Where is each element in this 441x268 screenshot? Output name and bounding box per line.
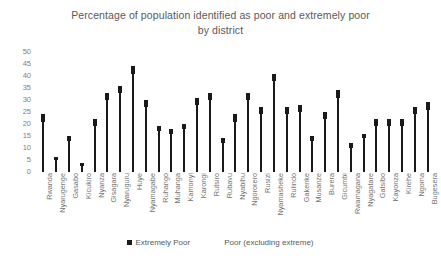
bar-column: [203, 52, 216, 172]
bar-column: [370, 52, 383, 172]
legend-label: Extremely Poor: [135, 238, 190, 247]
x-axis-label: Ruhango: [162, 173, 170, 203]
bar-extremely-poor: [324, 119, 326, 172]
bar-column: [127, 52, 140, 172]
y-axis: 50454035302520151050: [0, 46, 34, 178]
y-axis-tick: 15: [23, 132, 31, 140]
bar-poor-excluding-extreme: [362, 134, 366, 139]
bar-column: [319, 52, 332, 172]
bar-extremely-poor: [145, 107, 147, 172]
bar-poor-excluding-extreme: [221, 138, 225, 143]
bar-poor-excluding-extreme: [272, 74, 276, 81]
bar-poor-excluding-extreme: [118, 86, 122, 93]
bar-poor-excluding-extreme: [413, 107, 417, 114]
bar-column: [242, 52, 255, 172]
bar-column: [165, 52, 178, 172]
y-axis-tick: 30: [23, 96, 31, 104]
bar-extremely-poor: [68, 141, 70, 172]
bar-column: [114, 52, 127, 172]
bar-column: [306, 52, 319, 172]
x-axis-label: Rusizi: [264, 173, 272, 193]
x-axis-label: Bugesera: [431, 173, 439, 204]
x-axis-label: Nyaruguru: [123, 173, 131, 207]
x-axis-label: Kicukiro: [85, 173, 93, 199]
x-axis-label: Rwamagana: [354, 173, 362, 214]
x-axis-label: Gasabo: [72, 173, 80, 199]
chart-title-line-1: Percentage of population identified as p…: [71, 9, 370, 21]
legend-item[interactable]: Extremely Poor: [127, 238, 190, 247]
bar-extremely-poor: [401, 126, 403, 172]
bar-column: [178, 52, 191, 172]
bar-column: [37, 52, 50, 172]
bars-layer: [37, 52, 434, 172]
chart-legend: Extremely PoorPoor (excluding extreme): [0, 238, 441, 247]
bar-column: [50, 52, 63, 172]
bar-poor-excluding-extreme: [93, 119, 97, 126]
x-axis-label: Nyabihu: [239, 173, 247, 200]
bar-extremely-poor: [183, 129, 185, 172]
bar-column: [229, 52, 242, 172]
legend-item[interactable]: Poor (excluding extreme): [216, 238, 313, 247]
bar-extremely-poor: [234, 122, 236, 172]
bar-poor-excluding-extreme: [426, 102, 430, 109]
bar-poor-excluding-extreme: [105, 93, 109, 100]
x-axis-label: Karongi: [200, 173, 208, 198]
bar-poor-excluding-extreme: [259, 107, 263, 114]
y-axis-tick: 0: [27, 168, 31, 176]
bar-extremely-poor: [337, 98, 339, 172]
bar-poor-excluding-extreme: [298, 105, 302, 112]
bar-extremely-poor: [170, 134, 172, 172]
bar-poor-excluding-extreme: [54, 157, 58, 160]
bar-column: [357, 52, 370, 172]
y-axis-tick: 35: [23, 84, 31, 92]
bar-poor-excluding-extreme: [285, 107, 289, 114]
x-axis-label: Gisagara: [110, 173, 118, 203]
bar-column: [293, 52, 306, 172]
bar-extremely-poor: [42, 122, 44, 172]
bar-extremely-poor: [286, 114, 288, 172]
bar-extremely-poor: [427, 110, 429, 172]
bar-extremely-poor: [260, 114, 262, 172]
y-axis-tick: 20: [23, 120, 31, 128]
bar-poor-excluding-extreme: [400, 119, 404, 126]
bar-extremely-poor: [350, 148, 352, 172]
bar-extremely-poor: [414, 114, 416, 172]
x-axis-label: Ngororero: [251, 173, 259, 206]
bar-column: [280, 52, 293, 172]
x-axis-label: Gakenke: [303, 173, 311, 202]
x-axis-label: Nyagatare: [367, 173, 375, 207]
bar-extremely-poor: [299, 112, 301, 172]
chart-title: Percentage of population identified as p…: [30, 8, 411, 38]
x-axis-label: Gicumbi: [341, 173, 349, 200]
y-axis-tick: 40: [23, 72, 31, 80]
bar-extremely-poor: [94, 126, 96, 172]
bar-extremely-poor: [311, 141, 313, 172]
bar-extremely-poor: [388, 126, 390, 172]
x-axis-label: Nyarugenge: [59, 173, 67, 213]
y-axis-tick: 50: [23, 48, 31, 56]
bar-column: [101, 52, 114, 172]
bar-poor-excluding-extreme: [336, 90, 340, 97]
x-axis-label: Rutsiro: [213, 173, 221, 196]
x-axis-label: Nyamagabe: [149, 173, 157, 212]
bar-column: [139, 52, 152, 172]
bar-extremely-poor: [209, 100, 211, 172]
x-axis-label: Huye: [136, 173, 144, 190]
bar-poor-excluding-extreme: [131, 66, 135, 73]
bar-extremely-poor: [158, 131, 160, 172]
bar-column: [332, 52, 345, 172]
bar-extremely-poor: [247, 100, 249, 172]
x-axis-label: Ngoma: [418, 173, 426, 197]
bar-poor-excluding-extreme: [80, 163, 84, 166]
bar-poor-excluding-extreme: [169, 129, 173, 134]
bar-column: [63, 52, 76, 172]
chart-title-line-2: by district: [198, 24, 243, 36]
bar-poor-excluding-extreme: [310, 136, 314, 141]
bar-poor-excluding-extreme: [374, 119, 378, 126]
x-axis-label: Muhanga: [174, 173, 182, 203]
bar-poor-excluding-extreme: [323, 112, 327, 119]
bar-column: [88, 52, 101, 172]
chart-container: Percentage of population identified as p…: [0, 0, 441, 268]
bar-poor-excluding-extreme: [349, 143, 353, 148]
x-axis-label: Kirehe: [405, 173, 413, 194]
